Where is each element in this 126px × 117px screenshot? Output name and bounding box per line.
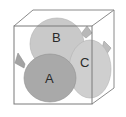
balloon-c-body <box>69 40 111 98</box>
balloon-a-knot <box>15 53 25 68</box>
balloon-a-label: A <box>45 71 54 86</box>
diagram: B C A <box>0 0 126 117</box>
balloon-c-label: C <box>80 55 89 70</box>
box-with-balloons-figure: B C A <box>0 0 126 117</box>
balloon-c: C <box>69 40 111 98</box>
balloon-b-label: B <box>52 30 61 45</box>
balloon-a: A <box>15 53 76 102</box>
